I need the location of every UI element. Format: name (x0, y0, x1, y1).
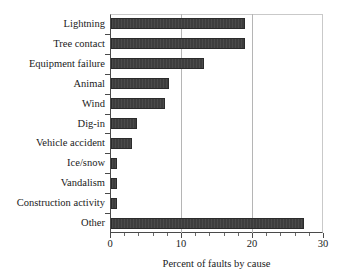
y-axis-label: Other (0, 217, 105, 229)
y-axis-tick (105, 173, 110, 174)
bar (111, 138, 132, 149)
y-axis-label: Wind (0, 98, 105, 110)
bar (111, 38, 245, 49)
x-axis-tick-label: 10 (166, 238, 196, 249)
bar-chart: LightningTree contactEquipment failureAn… (0, 0, 356, 280)
x-axis-minor-tick (295, 233, 296, 236)
y-axis-label: Vandalism (0, 177, 105, 189)
y-axis-tick (105, 54, 110, 55)
y-axis-tick (105, 193, 110, 194)
y-axis-label: Tree contact (0, 38, 105, 50)
x-axis-minor-tick (195, 233, 196, 236)
bar (111, 18, 245, 29)
bar (111, 118, 137, 129)
bar (111, 98, 165, 109)
x-axis-minor-tick (266, 233, 267, 236)
y-axis-tick (105, 114, 110, 115)
x-axis-minor-tick (224, 233, 225, 236)
bars-group (111, 14, 323, 233)
y-axis-label: Animal (0, 78, 105, 90)
y-axis-category-labels: LightningTree contactEquipment failureAn… (0, 14, 105, 233)
x-axis-minor-tick (153, 233, 154, 236)
bar (111, 178, 117, 189)
y-axis-tick (105, 74, 110, 75)
y-axis-label: Dig-in (0, 118, 105, 130)
x-axis-minor-tick (238, 233, 239, 236)
x-axis-tick-label: 0 (95, 238, 125, 249)
x-axis-tick-label: 30 (308, 238, 338, 249)
bar (111, 218, 304, 229)
y-axis-tick (105, 153, 110, 154)
y-axis-label: Construction activity (0, 197, 105, 209)
x-axis-minor-tick (209, 233, 210, 236)
y-axis-label: Vehicle accident (0, 137, 105, 149)
y-axis-label: Ice/snow (0, 157, 105, 169)
x-axis-minor-tick (280, 233, 281, 236)
bar (111, 198, 117, 209)
bar (111, 58, 204, 69)
x-axis-minor-tick (309, 233, 310, 236)
y-axis-tick (105, 213, 110, 214)
x-axis-tick-label: 20 (237, 238, 267, 249)
x-axis-minor-tick (138, 233, 139, 236)
x-axis-minor-tick (124, 233, 125, 236)
x-axis-title: Percent of faults by cause (110, 258, 323, 269)
y-axis-tick (105, 34, 110, 35)
bar (111, 78, 169, 89)
y-axis-label: Equipment failure (0, 58, 105, 70)
y-axis-tick (105, 133, 110, 134)
y-axis-tick (105, 94, 110, 95)
x-axis-minor-tick (167, 233, 168, 236)
bar (111, 158, 117, 169)
y-axis-label: Lightning (0, 18, 105, 30)
